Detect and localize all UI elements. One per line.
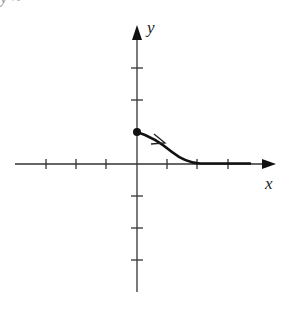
y-axis-label: y [147, 18, 155, 38]
trajectory-curve [137, 132, 250, 164]
start-point-dot [133, 128, 141, 136]
y-axis-arrow-icon [132, 25, 142, 40]
trajectory-diagram [0, 0, 284, 310]
x-axis-arrow-icon [262, 159, 276, 169]
x-axis-label: x [265, 174, 273, 194]
